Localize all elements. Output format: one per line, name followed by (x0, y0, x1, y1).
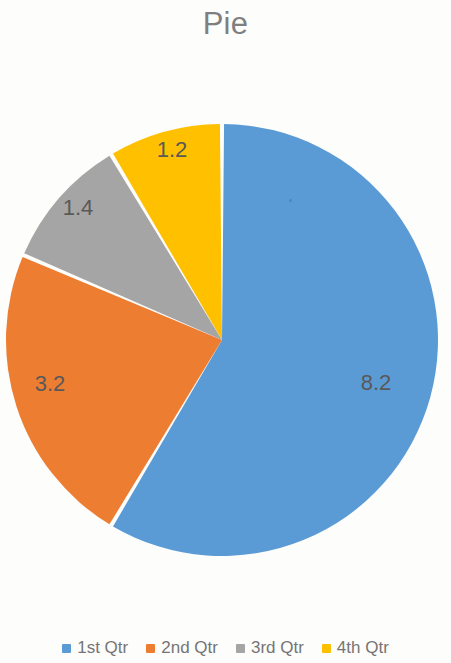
legend-swatch-icon (236, 644, 245, 653)
pie-chart: Pie 8.2 3.2 1.4 1.2 1st Qtr2nd Qtr3rd Qt… (0, 0, 451, 663)
legend-item-label: 4th Qtr (337, 638, 389, 658)
legend-item-1st-qtr[interactable]: 1st Qtr (62, 638, 128, 658)
legend-item-4th-qtr[interactable]: 4th Qtr (322, 638, 389, 658)
pie-plot-area: 8.2 3.2 1.4 1.2 (0, 95, 451, 595)
legend-item-2nd-qtr[interactable]: 2nd Qtr (146, 638, 218, 658)
chart-legend: 1st Qtr2nd Qtr3rd Qtr4th Qtr (0, 636, 451, 660)
legend-swatch-icon (62, 644, 71, 653)
pie-svg (0, 95, 451, 595)
legend-item-3rd-qtr[interactable]: 3rd Qtr (236, 638, 304, 658)
legend-swatch-icon (322, 644, 331, 653)
legend-swatch-icon (146, 644, 155, 653)
scan-artifact-speck (289, 199, 292, 202)
legend-item-label: 2nd Qtr (161, 638, 218, 658)
legend-item-label: 1st Qtr (77, 638, 128, 658)
pie-slice-group (6, 124, 438, 556)
legend-item-label: 3rd Qtr (251, 638, 304, 658)
chart-title: Pie (0, 4, 451, 44)
